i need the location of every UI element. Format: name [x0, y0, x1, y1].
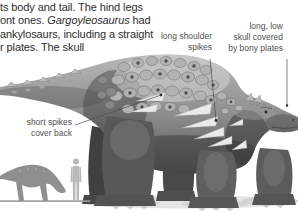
nostril — [292, 119, 294, 121]
body-text-segment: ont ones. — [0, 14, 47, 26]
small-dinosaur-silhouette — [0, 165, 66, 201]
callout-line: long shoulder — [128, 31, 212, 42]
body-text-segment: had — [130, 14, 151, 26]
callout-line: by bony plates — [219, 43, 283, 54]
callout-long-shoulder-spikes: long shoulder spikes — [128, 31, 212, 53]
callout-line: long, low — [219, 21, 283, 32]
callout-short-spikes-cover-back: short spikes cover back — [14, 117, 72, 139]
callout-long-low-skull: long, low skull covered by bony plates — [219, 21, 283, 53]
body-text-line: ts body and tail. The hind legs — [0, 1, 162, 14]
human-silhouette — [71, 159, 82, 202]
callout-line: cover back — [14, 128, 72, 139]
callout-line: short spikes — [14, 117, 72, 128]
size-comparison — [0, 159, 90, 202]
body-text-line: ont ones. Gargoyleosaurus had — [0, 14, 162, 27]
species-name: Gargoyleosaurus — [47, 14, 129, 26]
eye — [265, 111, 268, 114]
callout-line: spikes — [128, 42, 212, 53]
encyclopedia-page: ts body and tail. The hind legs ont ones… — [0, 0, 298, 213]
callout-line: skull covered — [219, 32, 283, 43]
